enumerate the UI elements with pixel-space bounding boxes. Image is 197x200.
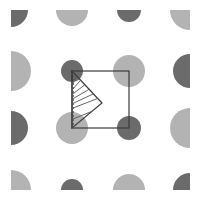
lattice-diagram <box>0 0 197 200</box>
